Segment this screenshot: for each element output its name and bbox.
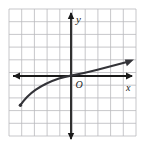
y-axis-label: y [75, 13, 81, 25]
origin-label: O [76, 79, 83, 90]
graph-figure: O y x [0, 0, 145, 154]
curve-start-dot [19, 104, 22, 107]
coordinate-plane-svg: O y x [0, 0, 145, 154]
x-axis-label: x [125, 82, 131, 93]
